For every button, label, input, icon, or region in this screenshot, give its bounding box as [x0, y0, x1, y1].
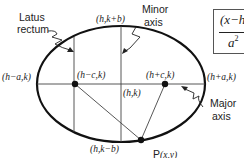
equation-fraction-bar	[219, 32, 244, 33]
latus-rectum-label-line2: rectum	[17, 24, 49, 35]
left-vertex-label: (h−a,k)	[2, 72, 31, 82]
center-label: (h,k)	[123, 88, 141, 98]
left-focus-label: (h−c,k)	[77, 70, 105, 80]
major-axis-label-line1: Major	[210, 98, 236, 109]
ellipse-diagram: Latus rectum Minor axis Major axis (h,k+…	[0, 0, 244, 158]
equation-denominator: a2	[228, 34, 239, 51]
major-axis-label-line2: axis	[212, 111, 231, 122]
point-p-coords: (x,y)	[160, 150, 177, 158]
minor-axis-label-line1: Minor	[142, 4, 168, 15]
point-p-letter: P	[153, 148, 160, 158]
top-vertex-label: (h,k+b)	[96, 14, 125, 24]
left-focus-dot	[72, 81, 78, 87]
minor-axis-arrowhead	[122, 48, 128, 54]
focal-radius-right	[141, 84, 165, 140]
minor-axis-label-line2: axis	[144, 17, 163, 28]
right-vertex-label: (h+a,k)	[207, 72, 236, 82]
latus-rectum-label-line1: Latus	[19, 12, 45, 23]
equation-numerator: (x−h	[220, 12, 244, 28]
right-focus-dot	[162, 81, 168, 87]
equation-box: (x−h a2	[213, 9, 244, 54]
point-p-label: P(x,y)	[153, 144, 177, 158]
right-focus-label: (h+c,k)	[146, 70, 174, 80]
minor-axis-leader	[124, 27, 140, 52]
bottom-vertex-label: (h,k−b)	[90, 144, 119, 154]
point-p-dot	[138, 137, 144, 143]
equation-denominator-exponent: 2	[235, 34, 239, 43]
